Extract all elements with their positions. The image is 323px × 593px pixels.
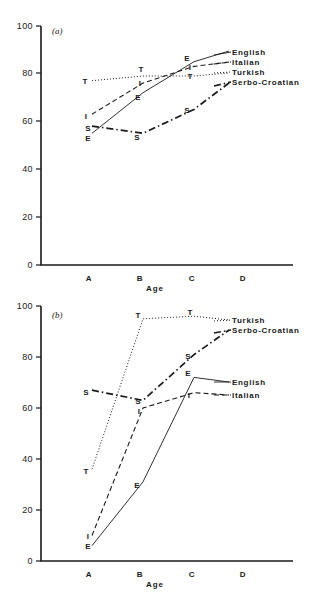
y-tick-label-60-b: 60 [22,403,33,413]
x-tick-label-d-b: D [240,570,246,579]
series-line-turkish-a [92,73,229,81]
legend-label-turkish-b: Turkish [232,316,265,325]
x-axis-title: Age [146,284,164,293]
x-tick-label-c-b: C [189,570,195,579]
marker-turkish-b-b: T [135,311,140,320]
marker-serbo-a-b: S [134,133,140,142]
marker-italian-b-b: I [138,407,141,416]
chart-b-svg: 0 20 40 60 80 100 A B C D Age (b) [0,296,323,592]
marker-english-b-b: E [134,481,140,490]
legend-line-english-a [214,52,231,55]
legend-line-serbo-b [214,330,231,333]
marker-serbo-b-a: S [83,388,89,397]
marker-italian-a-b: I [139,79,142,88]
marker-serbo-b-b: S [135,397,141,406]
legend-line-turkish-a [214,72,231,73]
x-axis-title-b: Age [146,580,164,589]
marker-turkish-b-c: T [187,308,192,317]
marker-english-b-c: E [185,369,191,378]
y-tick-label-80: 80 [22,68,33,78]
marker-english-a-b: E [135,93,141,102]
legend-label-turkish-a: Turkish [232,68,265,77]
x-tick-label-a-b: A [86,570,92,579]
marker-turkish-a-a: T [82,77,87,86]
marker-serbo-a-c: S [184,106,190,115]
x-tick-label-d: D [240,274,246,283]
y-tick-label-20-b: 20 [22,505,33,515]
chart-a-svg: 0 20 40 60 80 100 A B C D Age (a) [0,0,323,296]
marker-english-a-c: E [184,54,190,63]
legend-line-turkish-b [214,320,231,321]
legend-label-italian-a: Italian [232,58,260,67]
marker-italian-a-c: I [189,63,192,72]
y-tick-label-100: 100 [17,21,33,31]
marker-english-b-a: E [85,542,91,551]
series-line-italian-b [92,393,229,536]
marker-italian-b-c: I [188,391,191,400]
y-tick-label-0-b: 0 [28,556,33,566]
marker-turkish-b-a: T [83,467,88,476]
marker-italian-b-a: I [87,532,90,541]
y-tick-label-100-b: 100 [17,301,33,311]
x-tick-label-b: B [137,274,143,283]
x-tick-label-c: C [189,274,195,283]
y-tick-label-40: 40 [22,164,33,174]
y-tick-label-20: 20 [22,212,33,222]
marker-english-a-a: E [85,134,91,143]
legend-label-serbo-croatian-b: Serbo-Croatian [232,326,300,335]
series-line-serbo-croatian-b [92,330,229,400]
marker-turkish-a-c: T [187,72,192,81]
marker-serbo-a-a: S [85,124,91,133]
series-line-italian-a [92,62,229,114]
marker-serbo-b-c: S [185,352,191,361]
panel-label-b: (b) [52,310,63,320]
chart-panel-b: 0 20 40 60 80 100 A B C D Age (b) [0,296,323,592]
legend-label-english-a: English [232,48,266,57]
marker-turkish-a-b: T [138,65,143,74]
legend-label-serbo-croatian-a: Serbo-Croatian [232,78,300,87]
legend-label-italian-b: Italian [232,391,260,400]
x-tick-label-b-b: B [137,570,143,579]
figure-container: 0 20 40 60 80 100 A B C D Age (a) [0,0,323,593]
marker-italian-a-a: I [85,112,88,121]
series-line-english-a [92,51,229,133]
panel-label-a: (a) [52,26,63,36]
legend-label-english-b: English [232,378,266,387]
y-tick-label-60: 60 [22,116,33,126]
series-line-serbo-croatian-a [92,83,229,133]
y-tick-label-40-b: 40 [22,454,33,464]
y-tick-label-80-b: 80 [22,352,33,362]
x-tick-label-a: A [86,274,92,283]
chart-panel-a: 0 20 40 60 80 100 A B C D Age (a) [0,0,323,296]
y-tick-label-0: 0 [28,260,33,270]
